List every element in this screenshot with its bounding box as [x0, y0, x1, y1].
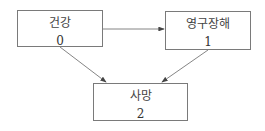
edge-1-to-2	[162, 50, 208, 82]
node-healthy: 건강 0	[17, 10, 103, 47]
node-number: 1	[166, 35, 250, 49]
node-death: 사망 2	[93, 83, 188, 121]
node-number: 2	[94, 107, 187, 121]
node-permanent-disability: 영구장해 1	[165, 11, 251, 50]
node-label: 영구장해	[166, 17, 250, 31]
node-label: 건강	[18, 16, 102, 30]
node-number: 0	[18, 34, 102, 48]
edge-0-to-2	[60, 47, 106, 82]
node-label: 사망	[94, 89, 187, 103]
